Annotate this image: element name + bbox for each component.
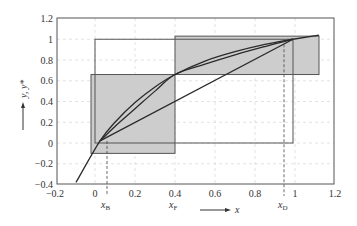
xB-label: xB	[100, 199, 110, 212]
y-axis-label: y, y*	[18, 80, 29, 99]
x-tick-label: 0.2	[129, 188, 142, 199]
y-tick-label: 0.6	[41, 75, 54, 86]
x-tick-label: 0.8	[249, 188, 262, 199]
y-tick-label: −0.4	[35, 179, 53, 190]
shaded-box-lower	[91, 75, 175, 154]
x-axis-arrowhead-icon	[225, 208, 231, 212]
chart: −0.200.20.40.60.811.2 −0.4−0.200.20.40.6…	[0, 0, 357, 226]
y-tick-label: 0.8	[41, 55, 54, 66]
x-tick-label: 0	[93, 188, 98, 199]
y-tick-label: 0.4	[41, 96, 54, 107]
x-tick-labels: −0.200.20.40.60.811.2	[46, 188, 341, 199]
x-tick-label: 1.2	[329, 188, 342, 199]
y-tick-label: 1	[48, 34, 53, 45]
y-tick-label: 0.2	[41, 117, 54, 128]
y-axis-arrowhead-icon	[21, 102, 25, 108]
xD-label: xD	[277, 199, 288, 212]
y-tick-label: 1.2	[41, 13, 54, 24]
x-tick-label: 1	[293, 188, 298, 199]
y-tick-label: −0.2	[35, 158, 53, 169]
rectangles	[91, 36, 319, 153]
y-tick-label: 0	[48, 138, 53, 149]
shaded-box-upper	[175, 36, 319, 74]
xF-label: xF	[168, 199, 177, 212]
x-axis-label: x	[234, 204, 240, 215]
y-tick-labels: −0.4−0.200.20.40.60.811.2	[35, 13, 53, 190]
x-tick-label: 0.4	[169, 188, 182, 199]
x-tick-label: 0.6	[209, 188, 222, 199]
